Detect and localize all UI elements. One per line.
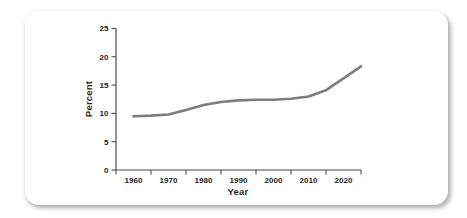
y-axis-title: Percent (83, 81, 94, 117)
x-tick-label: 2000 (265, 176, 283, 185)
x-tick-label: 1970 (160, 176, 178, 185)
y-tick-label: 5 (104, 138, 109, 147)
data-line (134, 66, 362, 116)
page-background: 05101520251960197019801990200020102020 P… (0, 0, 467, 218)
x-tick-label: 1990 (230, 176, 248, 185)
x-tick-label: 1960 (125, 176, 143, 185)
x-axis-title: Year (228, 186, 249, 197)
x-tick-label: 1980 (195, 176, 213, 185)
x-tick-label: 2010 (300, 176, 318, 185)
x-tick-label: 2020 (335, 176, 353, 185)
y-tick-label: 10 (100, 109, 109, 118)
y-tick-label: 0 (104, 166, 109, 175)
y-tick-label: 25 (100, 24, 109, 33)
y-tick-label: 15 (100, 81, 109, 90)
y-tick-label: 20 (100, 53, 109, 62)
